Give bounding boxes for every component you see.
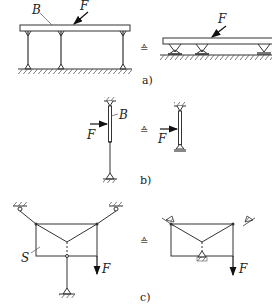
panel-c-right-frame: F	[162, 216, 255, 276]
ceiling-hatch	[109, 202, 123, 206]
ceiling-hatch	[174, 102, 186, 106]
equivalence-symbol: ≙	[140, 125, 148, 136]
support-base	[174, 149, 186, 152]
label-force-F: F	[86, 128, 96, 142]
equivalence-symbol: ≙	[140, 43, 148, 54]
force-arrow	[74, 12, 88, 24]
mechanics-diagram: B F ≙ F	[0, 0, 272, 307]
panel-a-right-beam-on-supports: F	[160, 12, 272, 60]
ceiling-hatch	[104, 97, 116, 101]
panel-c-left-frame: S F	[13, 202, 123, 298]
panel-c: S F ≙	[13, 202, 255, 304]
pin-support-icon	[176, 144, 184, 149]
rocker-support-icon	[257, 44, 271, 55]
pin-support-icon	[58, 64, 64, 69]
panel-a-left-beam-with-columns: B F	[18, 0, 132, 74]
hinge-icon	[107, 101, 113, 106]
caption-c: c)	[140, 291, 150, 304]
label-structure-S: S	[21, 251, 29, 265]
hinge-icon	[177, 106, 183, 111]
ground-hatch	[103, 179, 117, 183]
rocker-support-icon	[195, 44, 209, 55]
label-beam-B: B	[31, 3, 41, 17]
pin-support-icon	[106, 173, 114, 179]
beam	[163, 38, 272, 44]
panel-b-left-column: B F	[86, 97, 128, 183]
member-B	[109, 106, 112, 142]
label-force-F: F	[157, 132, 167, 146]
ground-hatch	[59, 294, 75, 298]
label-member-B: B	[118, 108, 128, 122]
force-arrow	[212, 26, 226, 37]
member	[179, 111, 182, 145]
ground-hatch	[18, 69, 132, 74]
beam-B	[20, 25, 130, 31]
hinge-icon	[18, 207, 22, 211]
panel-a: B F ≙ F	[18, 0, 272, 87]
pin-support-icon	[120, 64, 126, 69]
leader-line	[40, 13, 52, 25]
equivalence-symbol: ≙	[140, 236, 148, 247]
ground-hatch	[160, 55, 272, 60]
pin-support-icon	[232, 216, 256, 226]
pin-support-icon	[63, 288, 71, 294]
rocker-support-icon	[168, 44, 182, 55]
label-force-F: F	[238, 262, 248, 276]
label-force-F: F	[101, 262, 111, 276]
ground-hatch	[197, 257, 207, 261]
cable	[20, 211, 36, 224]
ceiling-hatch	[13, 202, 27, 206]
pin-support-icon	[25, 64, 31, 69]
caption-b: b)	[140, 174, 151, 187]
panel-b-right-column: F	[157, 102, 186, 152]
caption-a: a)	[142, 74, 153, 87]
panel-b: B F ≙ F b)	[86, 97, 186, 187]
hinge-icon	[114, 207, 118, 211]
pin-support-icon	[198, 251, 206, 257]
cable	[97, 211, 116, 224]
label-force-F: F	[79, 0, 89, 13]
leader-line	[111, 114, 118, 116]
label-force-F: F	[217, 12, 227, 26]
